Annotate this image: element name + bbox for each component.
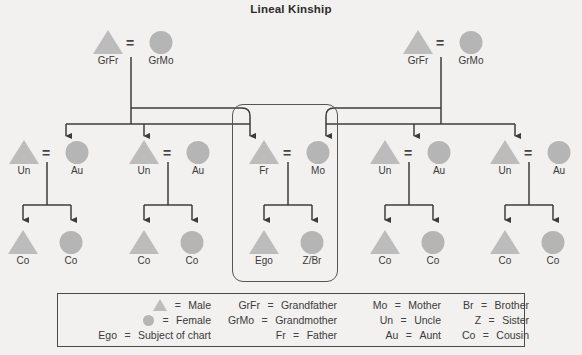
legend-item: GrFr = Grandfather <box>211 299 337 312</box>
node-label: Un <box>1 165 47 176</box>
node-label: GrFr <box>395 55 441 66</box>
male-triangle-icon <box>482 228 528 254</box>
node-cousin-4[interactable]: Co <box>169 228 215 266</box>
female-circle-icon <box>48 228 94 254</box>
node-grandmother-right[interactable]: GrMo <box>448 28 494 66</box>
legend-column-1: = Male = Female Ego = Subject of chart <box>61 299 211 342</box>
node-label: Co <box>482 255 528 266</box>
node-label: Co <box>410 255 456 266</box>
node-label: Au <box>54 165 100 176</box>
female-circle-icon <box>410 228 456 254</box>
legend-value: Cousin <box>496 329 529 342</box>
node-label: Au <box>536 165 582 176</box>
male-triangle-icon <box>395 28 441 54</box>
node-ego[interactable]: Ego <box>241 228 287 266</box>
node-label: Un <box>121 165 167 176</box>
female-circle-icon <box>289 228 335 254</box>
node-uncle-4[interactable]: Un <box>482 138 528 176</box>
node-label: Fr <box>241 165 287 176</box>
legend-value: Grandfather <box>281 299 337 312</box>
node-grandfather-right[interactable]: GrFr <box>395 28 441 66</box>
legend-item: Z = Sister <box>441 314 529 327</box>
node-cousin-6[interactable]: Co <box>410 228 456 266</box>
node-uncle-1[interactable]: Un <box>1 138 47 176</box>
kinship-diagram: Lineal Kinship <box>0 0 582 355</box>
node-aunt-2[interactable]: Au <box>175 138 221 176</box>
legend-value: Subject of chart <box>138 329 211 342</box>
legend-value: Male <box>188 299 211 312</box>
node-aunt-1[interactable]: Au <box>54 138 100 176</box>
legend-value: Female <box>176 314 211 327</box>
legend-key: Ego <box>61 329 117 342</box>
node-cousin-7[interactable]: Co <box>482 228 528 266</box>
legend-item: = Female <box>61 314 211 327</box>
legend-item: Un = Uncle <box>337 314 441 327</box>
node-cousin-5[interactable]: Co <box>362 228 408 266</box>
male-triangle-icon <box>121 228 167 254</box>
node-label: Au <box>175 165 221 176</box>
node-label: Co <box>48 255 94 266</box>
node-label: Co <box>0 255 46 266</box>
female-circle-icon <box>448 28 494 54</box>
legend-item: Fr = Father <box>211 329 337 342</box>
node-cousin-2[interactable]: Co <box>48 228 94 266</box>
node-label: GrMo <box>138 55 184 66</box>
female-circle-icon <box>54 138 100 164</box>
node-father[interactable]: Fr <box>241 138 287 176</box>
node-aunt-3[interactable]: Au <box>416 138 462 176</box>
legend-key: Br <box>441 299 474 312</box>
legend-item: = Male <box>61 299 211 312</box>
male-triangle-icon <box>241 138 287 164</box>
node-label: Un <box>482 165 528 176</box>
node-cousin-1[interactable]: Co <box>0 228 46 266</box>
legend-item: Ego = Subject of chart <box>61 329 211 342</box>
node-label: Ego <box>241 255 287 266</box>
legend-item: Br = Brother <box>441 299 529 312</box>
legend-equals: = <box>392 299 403 312</box>
male-triangle-icon <box>85 28 131 54</box>
legend-value: Uncle <box>414 314 441 327</box>
node-label: Co <box>169 255 215 266</box>
legend-box: = Male = Female Ego = Subject of chart G… <box>57 293 525 347</box>
legend-key: Z <box>441 314 481 327</box>
node-grandfather-left[interactable]: GrFr <box>85 28 131 66</box>
node-cousin-8[interactable]: Co <box>530 228 576 266</box>
male-triangle-icon <box>362 138 408 164</box>
node-aunt-4[interactable]: Au <box>536 138 582 176</box>
legend-value: Aunt <box>419 329 441 342</box>
node-uncle-2[interactable]: Un <box>121 138 167 176</box>
legend-column-3: Mo = Mother Un = Uncle Au = Aunt <box>337 299 441 342</box>
legend-equals: = <box>479 299 490 312</box>
legend-equals: = <box>265 299 276 312</box>
node-label: Co <box>530 255 576 266</box>
legend-key: Co <box>441 329 475 342</box>
node-sister-brother[interactable]: Z/Br <box>289 228 335 266</box>
female-circle-icon <box>530 228 576 254</box>
legend-key: Fr <box>211 329 286 342</box>
legend-key: GrFr <box>211 299 260 312</box>
female-circle-icon <box>138 28 184 54</box>
node-cousin-3[interactable]: Co <box>121 228 167 266</box>
node-label: Un <box>362 165 408 176</box>
legend-column-2: GrFr = Grandfather GrMo = Grandmother Fr… <box>211 299 337 342</box>
female-circle-icon <box>175 138 221 164</box>
node-grandmother-left[interactable]: GrMo <box>138 28 184 66</box>
marriage-symbol: = <box>126 36 134 50</box>
male-triangle-icon <box>121 138 167 164</box>
female-circle-icon <box>169 228 215 254</box>
legend-equals: = <box>122 329 133 342</box>
node-label: Co <box>121 255 167 266</box>
male-triangle-icon <box>482 138 528 164</box>
legend-equals: = <box>486 314 497 327</box>
legend-value: Brother <box>495 299 529 312</box>
legend-value: Grandmother <box>275 314 337 327</box>
legend-item: Co = Cousin <box>441 329 529 342</box>
node-uncle-3[interactable]: Un <box>362 138 408 176</box>
marriage-symbol: = <box>436 36 444 50</box>
legend-equals: = <box>480 329 491 342</box>
marriage-symbol: = <box>404 146 412 160</box>
node-mother[interactable]: Mo <box>295 138 341 176</box>
legend-value: Sister <box>502 314 529 327</box>
female-circle-icon <box>295 138 341 164</box>
male-triangle-icon <box>1 138 47 164</box>
